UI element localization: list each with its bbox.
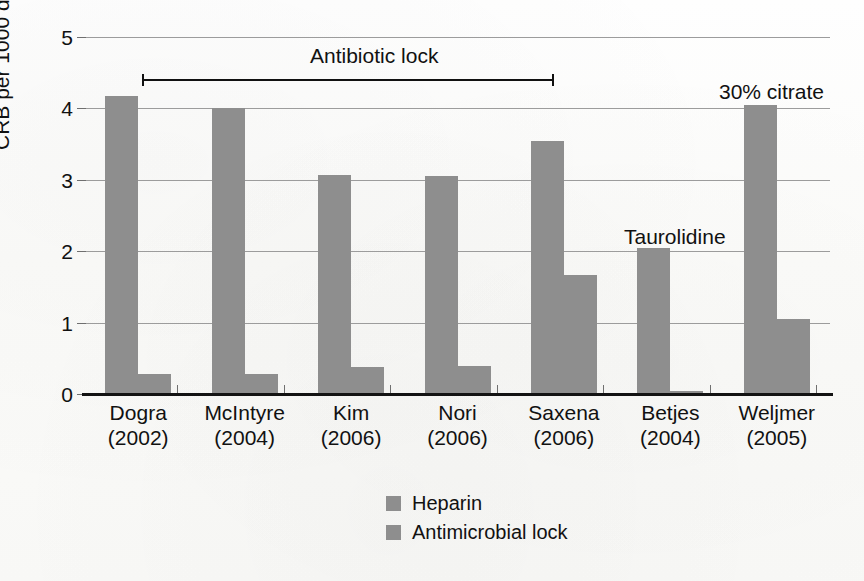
y-axis-tick-label: 4 xyxy=(61,98,73,119)
arrow-shaft xyxy=(142,79,554,81)
category-year: (2004) xyxy=(617,425,723,450)
x-axis-baseline xyxy=(82,393,833,396)
category-name: Kim xyxy=(333,401,369,424)
bar-heparin xyxy=(425,176,458,394)
y-axis-tick-mark xyxy=(77,180,86,181)
annotation-taurolidine: Taurolidine xyxy=(624,225,726,249)
category-year: (2002) xyxy=(85,425,191,450)
bar-heparin xyxy=(637,248,670,394)
category-year: (2006) xyxy=(404,425,510,450)
category-name: Dogra xyxy=(110,401,167,424)
category-name: Saxena xyxy=(528,401,599,424)
x-axis-category-label: Nori(2006) xyxy=(404,400,510,450)
category-year: (2005) xyxy=(724,425,830,450)
x-axis-category-label: McIntyre(2004) xyxy=(191,400,297,450)
y-axis-title: CRB per 1000 days xyxy=(0,0,14,150)
bar-group xyxy=(637,37,703,394)
bar-group xyxy=(531,37,597,394)
x-axis-category-label: Dogra(2002) xyxy=(85,400,191,450)
annotation-antibiotic-lock: Antibiotic lock xyxy=(310,44,438,68)
legend-item: Heparin xyxy=(386,493,568,513)
legend-swatch xyxy=(386,496,401,511)
bar-antimicrobial-lock xyxy=(458,366,491,394)
chart-legend: HeparinAntimicrobial lock xyxy=(386,493,568,551)
y-axis-tick-mark xyxy=(77,251,86,252)
x-axis-category-label: Betjes(2004) xyxy=(617,400,723,450)
bar-group xyxy=(105,37,171,394)
legend-label: Antimicrobial lock xyxy=(412,522,568,542)
category-name: Betjes xyxy=(641,401,699,424)
bar-antimicrobial-lock xyxy=(138,374,171,394)
x-axis-category-label: Saxena(2006) xyxy=(511,400,617,450)
bar-heparin xyxy=(212,108,245,394)
bar-group xyxy=(212,37,278,394)
bar-heparin xyxy=(318,175,351,394)
category-year: (2006) xyxy=(511,425,617,450)
bar-antimicrobial-lock xyxy=(564,275,597,394)
category-name: McIntyre xyxy=(204,401,285,424)
legend-label: Heparin xyxy=(412,493,482,513)
legend-swatch xyxy=(386,525,401,540)
y-axis-tick-mark xyxy=(77,323,86,324)
y-axis-tick-label: 3 xyxy=(61,169,73,190)
antibiotic-lock-span-arrow xyxy=(142,74,554,86)
x-axis-labels: Dogra(2002)McIntyre(2004)Kim(2006)Nori(2… xyxy=(85,400,830,470)
category-name: Weljmer xyxy=(738,401,815,424)
x-axis-category-label: Weljmer(2005) xyxy=(724,400,830,450)
category-year: (2004) xyxy=(191,425,297,450)
bar-heparin xyxy=(744,105,777,394)
y-axis-tick-mark xyxy=(77,37,86,38)
y-axis-tick-label: 2 xyxy=(61,241,73,262)
y-axis-tick-mark xyxy=(77,108,86,109)
category-year: (2006) xyxy=(298,425,404,450)
bar-antimicrobial-lock xyxy=(351,367,384,394)
bar-antimicrobial-lock xyxy=(245,374,278,394)
y-axis-tick-label: 0 xyxy=(61,384,73,405)
arrow-cap-right xyxy=(552,74,554,86)
annotation-citrate: 30% citrate xyxy=(719,80,824,104)
y-axis-tick-label: 5 xyxy=(61,27,73,48)
legend-item: Antimicrobial lock xyxy=(386,522,568,542)
bar-group xyxy=(318,37,384,394)
bar-chart-figure: CRB per 1000 days 012345 Dogra(2002)McIn… xyxy=(0,0,864,581)
x-axis-category-label: Kim(2006) xyxy=(298,400,404,450)
category-name: Nori xyxy=(438,401,477,424)
y-axis-tick-label: 1 xyxy=(61,312,73,333)
bar-antimicrobial-lock xyxy=(777,319,810,394)
bar-group xyxy=(425,37,491,394)
bar-heparin xyxy=(531,141,564,394)
bar-heparin xyxy=(105,96,138,394)
